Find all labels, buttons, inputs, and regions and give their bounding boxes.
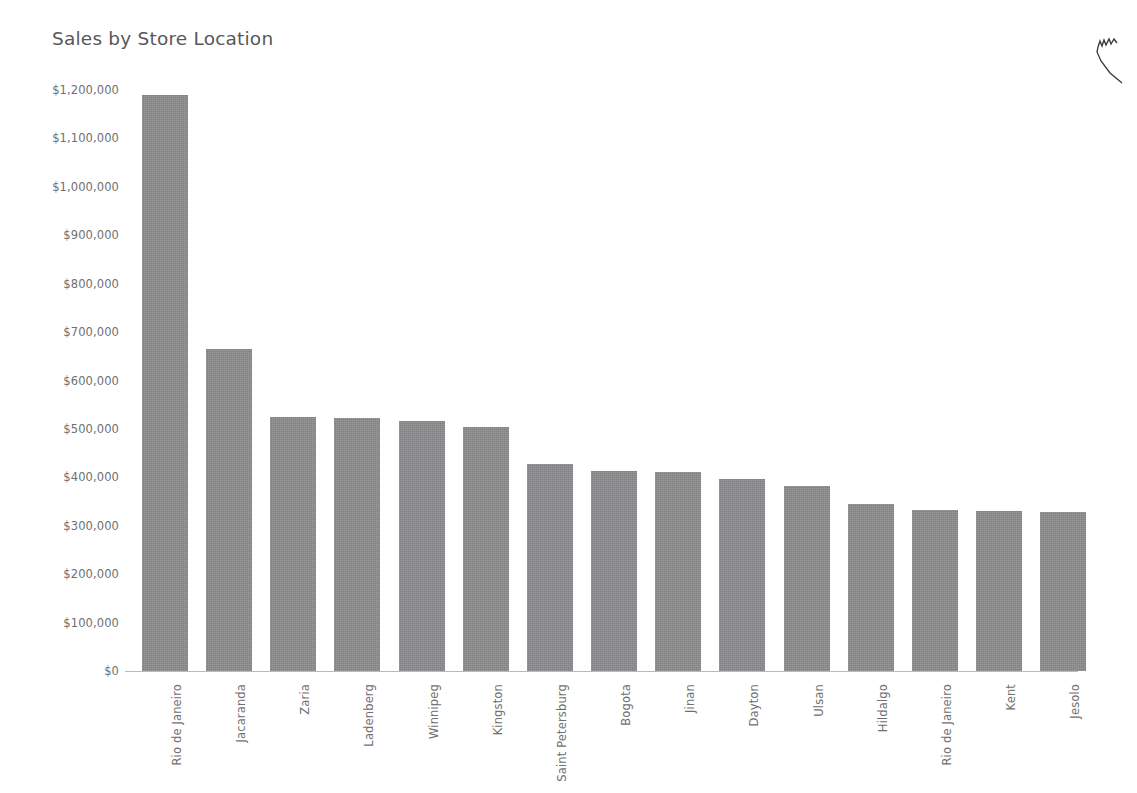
bar bbox=[719, 479, 765, 671]
bar bbox=[1040, 512, 1086, 671]
bar bbox=[142, 95, 188, 671]
bar bbox=[399, 421, 445, 671]
y-axis-tick-label: $1,200,000 bbox=[0, 83, 119, 97]
y-axis-tick-label: $200,000 bbox=[0, 567, 119, 581]
y-axis-tick-label: $800,000 bbox=[0, 277, 119, 291]
y-axis-tick-label: $600,000 bbox=[0, 374, 119, 388]
y-axis-tick-label: $1,100,000 bbox=[0, 131, 119, 145]
y-axis-tick-label: $500,000 bbox=[0, 422, 119, 436]
y-axis-tick-label: $1,000,000 bbox=[0, 180, 119, 194]
bar bbox=[334, 418, 380, 671]
y-axis-tick-label: $300,000 bbox=[0, 519, 119, 533]
bar bbox=[784, 486, 830, 671]
bar bbox=[591, 471, 637, 671]
y-axis-tick-label: $700,000 bbox=[0, 325, 119, 339]
y-axis-tick-label: $0 bbox=[0, 664, 119, 678]
bar bbox=[206, 349, 252, 671]
y-axis-tick-label: $400,000 bbox=[0, 470, 119, 484]
plot-area: $1,200,000$1,100,000$1,000,000$900,000$8… bbox=[0, 0, 1137, 793]
bar bbox=[976, 511, 1022, 671]
bar bbox=[848, 504, 894, 671]
bar bbox=[527, 464, 573, 671]
bar-chart: Sales by Store Location $1,200,000$1,100… bbox=[0, 0, 1137, 793]
axis-baseline bbox=[125, 671, 1078, 672]
y-axis-tick-label: $100,000 bbox=[0, 616, 119, 630]
bar bbox=[270, 417, 316, 671]
y-axis-tick-label: $900,000 bbox=[0, 228, 119, 242]
bar bbox=[463, 427, 509, 671]
bar bbox=[655, 472, 701, 671]
bar bbox=[912, 510, 958, 671]
